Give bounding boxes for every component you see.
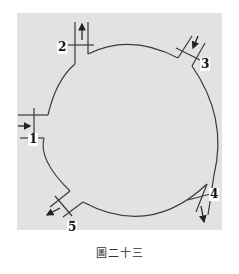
chamber-outline xyxy=(88,44,178,58)
arrow-port-4-out-icon xyxy=(201,206,204,222)
port-4-label: 4 xyxy=(209,188,219,201)
figure-caption: 圖二十三 xyxy=(0,244,239,260)
arrow-port-3-in-icon xyxy=(193,36,198,48)
port-5-duct xyxy=(50,191,70,207)
port-2-label: 2 xyxy=(57,41,67,54)
port-3-label: 3 xyxy=(200,58,210,71)
port-5-label: 5 xyxy=(67,221,77,234)
port-1-label: 1 xyxy=(28,133,38,146)
arrow-port-5-out-icon xyxy=(47,208,60,215)
